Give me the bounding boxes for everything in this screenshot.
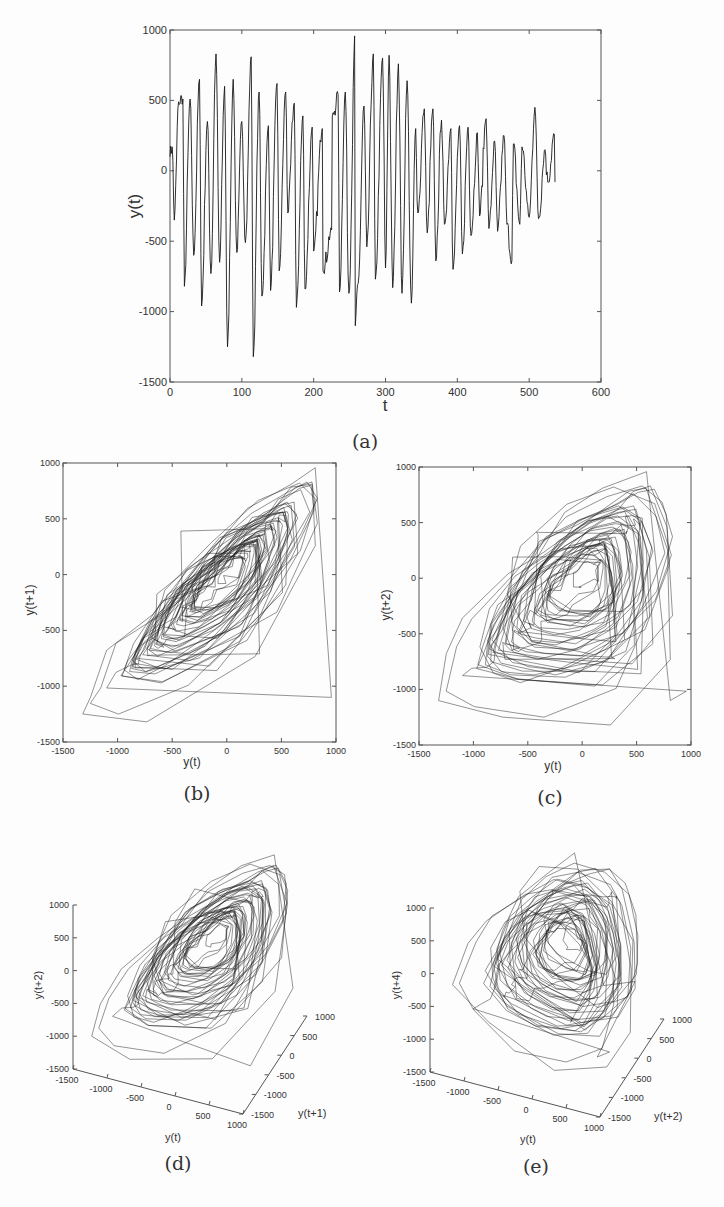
plot-d-ytick-label: 1000	[315, 1012, 335, 1022]
figure: 0100200300400500600-1500-1000-5000500100…	[0, 0, 724, 1207]
plot-e-xlabel: y(t)	[520, 1133, 536, 1145]
plot-e-xtick-label: 0	[523, 1105, 528, 1115]
plot-e-xtick-label: -1000	[446, 1087, 469, 1097]
plot-c-xtick-label: -500	[519, 749, 537, 759]
caption-e: (e)	[523, 1155, 549, 1177]
plot-d-xtick-label: 1000	[227, 1120, 247, 1130]
plot-e-ztick-label: 1000	[406, 903, 426, 913]
plot-b-ytick-label: 500	[45, 514, 60, 524]
plot-c-ytick-label: 0	[411, 573, 416, 583]
plot-e-xtick	[464, 1077, 465, 1081]
plot-e-xtick	[532, 1095, 533, 1099]
plot-c-ytick-label: -500	[398, 629, 416, 639]
plot-a-xtick-label: 500	[520, 386, 538, 398]
plot-b-xtick-label: -1000	[106, 746, 129, 756]
plot-e-ytick-label: -1000	[621, 1093, 644, 1103]
plot-b-xtick-label: -500	[163, 746, 181, 756]
caption-b: (b)	[184, 782, 211, 804]
plot-d-ztick-label: 1000	[49, 900, 69, 910]
plot-d-xtick-label: -1500	[55, 1075, 78, 1085]
caption-a: (a)	[352, 430, 378, 452]
plot-c-xtick-label: -1500	[407, 749, 430, 759]
plot-b-xtick-label: -1500	[51, 746, 74, 756]
plot-d-ztick-label: 500	[54, 933, 69, 943]
plot-d-xtick	[209, 1101, 210, 1105]
plot-e-ztick-label: -1000	[403, 1034, 426, 1044]
plot-d-ytick-label: -1500	[251, 1110, 274, 1120]
plot-c-xtick-label: -1000	[462, 749, 485, 759]
plot-c-ytick-label: 500	[401, 518, 416, 528]
plot-a-xtick-label: 100	[233, 386, 251, 398]
plot-e-xtick	[498, 1086, 499, 1090]
plot-e-xtick-label: -500	[483, 1096, 501, 1106]
plot-d-ztick-label: -1500	[46, 1064, 69, 1074]
plot-d-trajectory	[92, 855, 293, 1066]
plot-d-xlabel: y(t)	[165, 1131, 181, 1143]
plot-d-ytick-label: -1000	[264, 1090, 287, 1100]
plot-a-xtick-label: 600	[592, 386, 610, 398]
plot-b-xlabel: y(t)	[183, 755, 200, 769]
plot-d-xtick	[107, 1074, 108, 1078]
plot-a-ylabel: y(t)	[125, 194, 144, 219]
plot-e-ylabel: y(t+2)	[654, 1110, 682, 1122]
plot-d-3d-embedding: -1500-1000-50005001000-1500-1000-5000500…	[32, 855, 335, 1143]
plot-d-xtick	[141, 1083, 142, 1087]
plot-b-ytick-label: 1000	[40, 458, 60, 468]
plot-a-xtick-label: 0	[167, 386, 173, 398]
plot-d-zlabel: y(t+2)	[32, 971, 44, 999]
plot-d-ytick-label: 0	[289, 1051, 294, 1061]
plot-c-xtick-label: 1000	[681, 749, 701, 759]
caption-c: (c)	[537, 786, 562, 808]
plot-a-ytick-label: 500	[149, 94, 167, 106]
plot-a-ytick-label: -1500	[139, 376, 167, 388]
plot-d-ztick-label: -500	[51, 998, 69, 1008]
plot-b-trajectory	[83, 468, 332, 722]
plot-e-ztick-label: 500	[411, 936, 426, 946]
plot-d-ztick-label: -1000	[46, 1031, 69, 1041]
plot-b-xtick-label: 500	[274, 746, 289, 756]
plot-e-3d-embedding: -1500-1000-50005001000-1500-1000-5000500…	[390, 853, 692, 1145]
plot-a-xtick-label: 200	[304, 386, 322, 398]
plot-d-xtick	[175, 1092, 176, 1096]
plot-d-ytick-label: -500	[277, 1071, 295, 1081]
plot-d-ztick-label: 0	[64, 966, 69, 976]
plot-c-trajectory	[439, 472, 687, 725]
plot-c-xlabel: y(t)	[544, 759, 561, 773]
plot-e-zlabel: y(t+4)	[390, 971, 402, 999]
plot-e-ztick-label: -1500	[403, 1067, 426, 1077]
plot-a-time-series: 0100200300400500600-1500-1000-5000500100…	[125, 24, 610, 415]
plot-e-xtick-label: 1000	[584, 1123, 604, 1133]
plot-c-ylabel: y(t+2)	[379, 589, 393, 620]
plot-d-ytick-label: 500	[302, 1032, 317, 1042]
plot-c-ytick-label: -1500	[393, 740, 416, 750]
plot-a-series-line	[170, 36, 555, 357]
plot-c-xtick-label: 0	[580, 749, 585, 759]
plot-e-trajectory	[453, 853, 638, 1071]
plot-b-ytick-label: -1000	[37, 681, 60, 691]
plot-e-ytick-label: -1500	[608, 1113, 631, 1123]
plot-a-xtick-label: 400	[448, 386, 466, 398]
plot-a-ytick-label: -1000	[139, 305, 167, 317]
plot-e-ytick-label: -500	[634, 1074, 652, 1084]
plot-e-xtick-label: -1500	[412, 1078, 435, 1088]
plot-e-ytick-label: 500	[659, 1035, 674, 1045]
plot-b-ylabel: y(t+1)	[23, 584, 37, 615]
plot-e-xtick	[566, 1104, 567, 1108]
plot-e-ytick-label: 0	[646, 1054, 651, 1064]
plot-e-ytick-label: 1000	[672, 1015, 692, 1025]
plot-b-ytick-label: -500	[42, 625, 60, 635]
plot-d-ylabel: y(t+1)	[298, 1107, 326, 1119]
plot-a-xlabel: t	[383, 396, 388, 415]
plot-a-ytick-label: 0	[161, 164, 167, 176]
plot-b-frame	[63, 463, 336, 742]
plot-d-xtick-label: -500	[126, 1093, 144, 1103]
plot-a-ytick-label: -500	[145, 235, 167, 247]
plot-d-xtick-label: -1000	[89, 1084, 112, 1094]
plot-c-ytick-label: 1000	[396, 462, 416, 472]
plot-e-ztick-label: 0	[421, 969, 426, 979]
plot-b-xtick-label: 1000	[326, 746, 346, 756]
plot-d-xtick-label: 0	[166, 1102, 171, 1112]
plot-b-ytick-label: 0	[55, 570, 60, 580]
plot-b-xtick-label: 0	[224, 746, 229, 756]
plot-c-ytick-label: -1000	[393, 684, 416, 694]
